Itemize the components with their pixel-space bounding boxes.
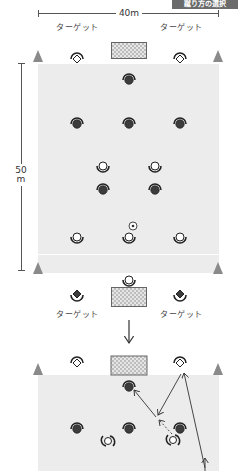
target-marker-top-left xyxy=(71,53,83,63)
target-marker-bottom-right xyxy=(174,290,186,301)
diagram-players-layer xyxy=(0,0,238,471)
target-marker-bottom-left xyxy=(71,290,83,301)
target-marker-top-right xyxy=(174,53,186,63)
